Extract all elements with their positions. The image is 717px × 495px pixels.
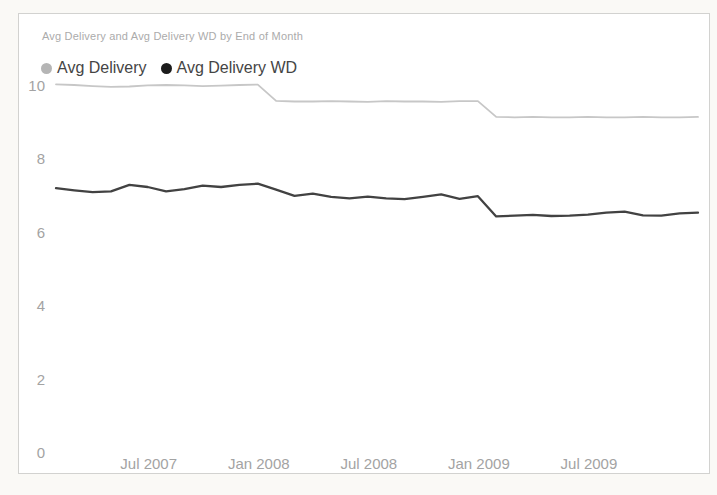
page-background: Avg Delivery and Avg Delivery WD by End … xyxy=(0,0,717,495)
plot-canvas xyxy=(0,0,717,495)
plot-area[interactable] xyxy=(56,75,698,452)
